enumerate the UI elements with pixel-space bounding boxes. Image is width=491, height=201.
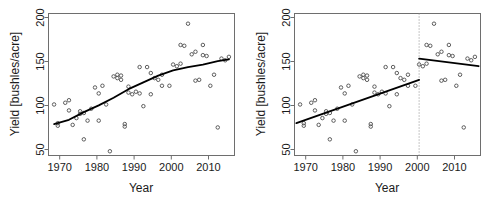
data-point <box>112 75 116 79</box>
data-point <box>201 53 205 57</box>
data-point <box>156 78 160 82</box>
scatter-points-left <box>52 22 230 153</box>
data-point <box>365 74 369 78</box>
data-point <box>216 126 220 130</box>
y-tick-label: 100 <box>34 96 46 114</box>
data-point <box>160 84 164 88</box>
data-point <box>347 84 351 88</box>
data-point <box>443 78 447 82</box>
x-tick-label: 2000 <box>405 161 429 173</box>
x-tick-label: 1970 <box>293 161 317 173</box>
data-point <box>209 84 213 88</box>
data-point <box>440 50 444 54</box>
x-tick-label: 1990 <box>122 161 146 173</box>
data-point <box>67 98 71 102</box>
data-point <box>373 91 377 95</box>
data-point <box>149 71 153 75</box>
data-point <box>71 123 75 127</box>
data-point <box>108 150 112 154</box>
data-point <box>429 44 433 48</box>
x-axis-title-right: Year <box>375 181 399 195</box>
data-point <box>101 84 105 88</box>
data-point <box>395 71 399 75</box>
data-point <box>52 103 56 107</box>
data-point <box>406 73 410 77</box>
y-axis-ticks-right <box>291 18 295 150</box>
data-point <box>414 84 418 88</box>
data-point <box>194 50 198 54</box>
data-point <box>205 54 209 58</box>
x-axis-ticks-right <box>306 156 455 160</box>
data-point <box>175 64 179 68</box>
data-point <box>432 22 436 26</box>
data-point <box>82 138 86 142</box>
x-axis-tick-labels-left: 1970 1980 1990 2000 2010 <box>47 161 220 173</box>
y-tick-label: 200 <box>34 8 46 26</box>
data-point <box>190 53 194 57</box>
data-point <box>399 76 403 80</box>
regression-line-pre-2000 <box>296 80 419 123</box>
x-axis-tick-labels-right: 1970 1980 1990 2000 2010 <box>293 161 466 173</box>
data-point <box>201 43 205 47</box>
data-point <box>97 92 101 96</box>
data-point <box>104 103 108 107</box>
data-point <box>332 119 336 123</box>
y-axis-title-left: Yield [bushles/acre] <box>8 32 22 136</box>
data-point <box>145 65 149 69</box>
y-tick-label: 50 <box>34 143 46 155</box>
data-point <box>183 44 187 48</box>
plot-left-svg: 200 150 100 50 Yield [bushles/acre] 1970… <box>0 0 245 201</box>
x-tick-label: 1990 <box>368 161 392 173</box>
trend-line-left <box>54 59 229 124</box>
y-axis-tick-labels-left: 200 150 100 50 <box>34 8 46 155</box>
figure-two-panel-scatter: 200 150 100 50 Yield [bushles/acre] 1970… <box>0 0 491 201</box>
x-tick-label: 2010 <box>196 161 220 173</box>
data-point <box>466 57 470 61</box>
data-point <box>67 109 71 113</box>
data-point <box>194 79 198 83</box>
data-point <box>313 109 317 113</box>
data-point <box>365 78 369 82</box>
data-point <box>63 101 67 105</box>
data-point <box>354 150 358 154</box>
data-point <box>462 126 466 130</box>
y-tick-label: 150 <box>34 52 46 70</box>
data-point <box>119 74 123 78</box>
y-tick-label: 100 <box>280 96 292 114</box>
x-tick-label: 1970 <box>47 161 71 173</box>
data-point <box>373 85 377 89</box>
data-point <box>328 138 332 142</box>
data-point <box>313 98 317 102</box>
y-tick-label: 150 <box>280 52 292 70</box>
data-point <box>179 62 183 66</box>
y-axis-tick-labels-right: 200 150 100 50 <box>280 8 292 155</box>
data-point <box>451 54 455 58</box>
data-point <box>212 73 216 77</box>
data-point <box>93 86 97 90</box>
data-point <box>436 53 440 57</box>
data-point <box>421 64 425 68</box>
data-point <box>447 53 451 57</box>
y-axis-title-right: Yield [bushles/acre] <box>254 32 268 136</box>
data-point <box>134 90 138 94</box>
scatter-points-right <box>298 22 476 153</box>
data-point <box>298 103 302 107</box>
data-point <box>343 92 347 96</box>
data-point <box>86 119 90 123</box>
x-axis-title-left: Year <box>129 181 153 195</box>
data-point <box>388 104 392 108</box>
y-tick-label: 50 <box>280 143 292 155</box>
plot-box-right <box>295 14 481 156</box>
y-axis-ticks-left <box>45 18 49 150</box>
y-tick-label: 200 <box>280 8 292 26</box>
data-point <box>142 104 146 108</box>
data-point <box>130 93 134 97</box>
data-point <box>227 55 231 59</box>
data-point <box>339 86 343 90</box>
data-point <box>343 119 347 123</box>
data-point <box>425 43 429 47</box>
data-point <box>119 78 123 82</box>
data-point <box>97 119 101 123</box>
data-point <box>197 78 201 82</box>
x-axis-ticks-left <box>60 156 209 160</box>
